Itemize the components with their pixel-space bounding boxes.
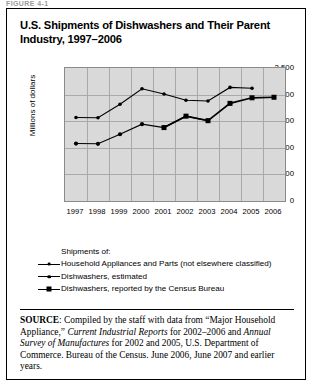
data-point	[96, 116, 100, 120]
data-point	[228, 101, 233, 106]
data-point	[250, 95, 255, 100]
legend-heading: Shipments of:	[61, 247, 293, 256]
legend-item: Dishwashers, reported by the Census Bure…	[37, 284, 293, 294]
data-point	[206, 118, 211, 123]
series-line	[164, 97, 274, 127]
data-point	[96, 142, 100, 146]
legend-item-label: Dishwashers, reported by the Census Bure…	[61, 284, 224, 294]
legend-marker-filled-square-icon	[37, 285, 61, 294]
data-point	[228, 86, 232, 90]
data-point	[162, 125, 167, 130]
source-italic-1: Current Industrial Reports	[67, 327, 167, 337]
data-point	[74, 116, 78, 120]
legend-item-label: Dishwashers, estimated	[61, 272, 147, 282]
series-line	[76, 87, 252, 117]
data-point	[140, 122, 144, 126]
legend-marker-medium-dot-icon	[37, 272, 61, 281]
page-title: U.S. Shipments of Dishwashers and Their …	[20, 19, 292, 46]
legend-marker-small-dot-icon	[37, 260, 61, 269]
data-point	[272, 95, 277, 100]
source-note: SOURCE: Compiled by the staff with data …	[20, 315, 292, 373]
data-point	[140, 87, 144, 91]
legend-item: Dishwashers, estimated	[37, 272, 293, 282]
divider	[20, 309, 294, 310]
figure-label: FIGURE 4-1	[6, 0, 49, 6]
data-point	[206, 99, 210, 103]
plot-area	[64, 67, 286, 202]
data-point	[74, 141, 78, 145]
data-point	[162, 92, 166, 96]
legend-item-label: Household Appliances and Parts (not else…	[61, 259, 272, 269]
y-axis-label: Millions of dollars	[28, 66, 37, 146]
x-axis-ticks: 1997199819992000200120022003200420052006	[64, 207, 286, 219]
data-point	[250, 86, 254, 90]
data-point	[184, 98, 188, 102]
chart-container: Millions of dollars 05001,0001,5002,0002…	[20, 61, 294, 231]
figure-panel: U.S. Shipments of Dishwashers and Their …	[6, 8, 306, 380]
legend-item: Household Appliances and Parts (not else…	[37, 259, 293, 269]
source-prefix: SOURCE	[20, 315, 59, 325]
series-lines	[65, 68, 285, 201]
chart-legend: Shipments of: Household Appliances and P…	[37, 247, 293, 297]
x-tick-label: 2006	[258, 207, 288, 216]
source-text-2: for 2002–2006 and	[168, 327, 244, 337]
data-point	[118, 102, 122, 106]
data-point	[184, 114, 189, 119]
data-point	[118, 132, 122, 136]
legend-items: Household Appliances and Parts (not else…	[37, 259, 293, 294]
series-line	[76, 116, 208, 144]
